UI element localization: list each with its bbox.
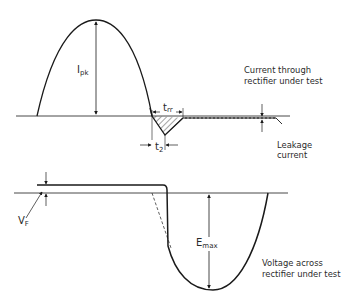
voltage-waveform: VF Emax Voltage across rectifier under t… xyxy=(14,172,341,290)
ipk-label: Ipk xyxy=(77,64,89,77)
voltage-trace xyxy=(37,185,268,290)
vf-label: VF xyxy=(18,215,29,228)
trr-label: trr xyxy=(163,102,173,114)
vf-leader xyxy=(26,192,42,218)
leakage-caption-line1: Leakage xyxy=(277,140,312,150)
recovery-waveform-diagram: Ipk trr t2 Current through rectifier und… xyxy=(0,0,351,304)
t2-label: t2 xyxy=(155,141,163,154)
voltage-caption-line1: Voltage across xyxy=(262,258,323,268)
voltage-caption-line2: rectifier under test xyxy=(262,269,341,279)
leakage-caption-line2: current xyxy=(277,150,308,160)
current-caption-line1: Current through xyxy=(244,65,311,75)
current-caption-line2: rectifier under test xyxy=(244,76,323,86)
current-waveform: Ipk trr t2 Current through rectifier und… xyxy=(16,20,323,160)
current-positive-half-cycle xyxy=(37,20,152,116)
leakage-current-tail xyxy=(276,118,282,124)
